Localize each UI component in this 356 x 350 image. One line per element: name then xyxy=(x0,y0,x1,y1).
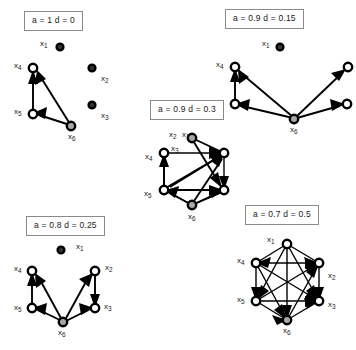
node-x5[interactable] xyxy=(29,110,37,118)
edge-group xyxy=(27,272,100,321)
node-x2[interactable] xyxy=(344,63,352,71)
node-x1[interactable] xyxy=(57,44,64,51)
node-label-x2: x2 xyxy=(169,131,177,139)
node-label-x1: x1 xyxy=(76,243,84,251)
node-label-x6: x6 xyxy=(283,327,291,335)
node-x3[interactable] xyxy=(220,186,228,194)
node-label-x5: x5 xyxy=(144,190,152,198)
node-label-x1: x1 xyxy=(40,40,48,48)
node-x2[interactable] xyxy=(220,149,228,157)
node-x5[interactable] xyxy=(252,297,260,305)
edge-x6-x4 xyxy=(39,278,62,320)
node-label-x4: x4 xyxy=(145,153,153,161)
arrowhead-x6-x4 xyxy=(35,273,46,288)
node-x2[interactable] xyxy=(89,65,96,72)
panel-a07-d05: a = 0.7 d = 0.5 xyxy=(178,195,356,350)
node-label-x4: x4 xyxy=(216,61,224,69)
node-x3[interactable] xyxy=(315,297,323,305)
node-label-x5: x5 xyxy=(14,304,22,312)
node-label-x3: x3 xyxy=(171,145,179,153)
node-label-x1: x1 xyxy=(267,236,275,244)
node-label-x6: x6 xyxy=(290,126,298,134)
node-x1[interactable] xyxy=(58,247,65,254)
node-x6[interactable] xyxy=(59,318,67,326)
node-x4[interactable] xyxy=(252,259,260,267)
node-label-x4: x4 xyxy=(14,265,22,273)
graph-a08-d025 xyxy=(0,200,178,350)
node-x4[interactable] xyxy=(160,149,168,157)
node-x1[interactable] xyxy=(277,44,284,51)
node-label-x5: x5 xyxy=(237,296,245,304)
node-label-x2: x2 xyxy=(101,75,109,83)
figure-canvas: a = 1 d = 0 x1 x2 x3 xyxy=(0,0,356,350)
node-label-x3: x3 xyxy=(328,301,336,309)
node-label-x3: x3 xyxy=(104,303,112,311)
node-label-x4: x4 xyxy=(237,257,245,265)
node-x3[interactable] xyxy=(89,102,96,109)
arrowhead-x6-x2 xyxy=(79,273,93,287)
arrowhead-x6-x2 xyxy=(331,69,346,81)
node-x5[interactable] xyxy=(28,304,36,312)
node-x4[interactable] xyxy=(231,63,239,71)
node-x5[interactable] xyxy=(160,186,168,194)
node-x1[interactable] xyxy=(283,240,291,248)
node-x3[interactable] xyxy=(343,100,351,108)
node-x2[interactable] xyxy=(91,267,99,275)
edge-x6-x2 xyxy=(65,278,88,320)
edge-group xyxy=(251,244,324,325)
node-x6[interactable] xyxy=(67,122,75,130)
node-label-x4: x4 xyxy=(14,62,22,70)
node-label-x2: x2 xyxy=(105,264,113,272)
node-label-x2: x2 xyxy=(328,272,336,280)
node-label-x5: x5 xyxy=(14,108,22,116)
node-x6[interactable] xyxy=(283,316,291,324)
edge-x6-x2 xyxy=(296,74,341,117)
arrowhead-x6-x4 xyxy=(238,69,249,84)
node-label-x1: x1 xyxy=(182,131,190,139)
node-x3[interactable] xyxy=(91,304,99,312)
node-group xyxy=(29,44,96,131)
node-label-x3: x3 xyxy=(101,112,109,120)
node-x4[interactable] xyxy=(28,267,36,275)
node-x4[interactable] xyxy=(29,64,37,72)
node-label-x6: x6 xyxy=(58,329,66,337)
node-x6[interactable] xyxy=(290,115,298,123)
panel-a08-d025: a = 0.8 d = 0.25 xyxy=(0,200,178,350)
node-x2[interactable] xyxy=(315,259,323,267)
node-label-x1: x1 xyxy=(262,40,270,48)
node-label-x6: x6 xyxy=(68,133,76,141)
